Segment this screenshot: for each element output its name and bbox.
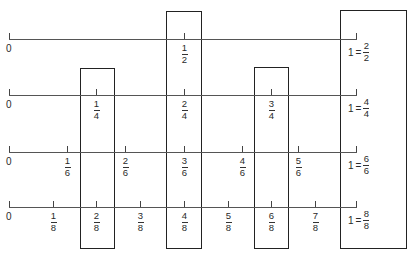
zero-label: 0 [6, 211, 12, 222]
tick [271, 201, 272, 207]
whole-equals-label: 1 = 88 [348, 209, 369, 231]
fraction-label: 14 [94, 99, 100, 121]
tick [242, 146, 243, 152]
tick [9, 33, 10, 39]
tick [315, 201, 316, 207]
fraction-label: 24 [182, 99, 188, 121]
tick [356, 201, 357, 207]
axis-line [9, 95, 357, 96]
whole-equals-label: 1 = 22 [348, 41, 369, 63]
fraction-label: 36 [182, 156, 188, 178]
tick [356, 146, 357, 152]
tick [184, 201, 185, 207]
axis-line [9, 39, 357, 40]
tick [356, 89, 357, 95]
tick [67, 146, 68, 152]
zero-label: 0 [6, 99, 12, 110]
fraction-label: 16 [65, 156, 71, 178]
tick [140, 201, 141, 207]
tick [184, 33, 185, 39]
fraction-label: 56 [296, 156, 302, 178]
whole-equals-label: 1 = 44 [348, 97, 369, 119]
fraction-label: 68 [269, 211, 275, 233]
tick [228, 201, 229, 207]
fraction-label: 78 [313, 211, 319, 233]
fraction-label: 12 [182, 43, 188, 65]
zero-label: 0 [6, 156, 12, 167]
tick [298, 146, 299, 152]
fraction-label: 26 [123, 156, 129, 178]
axis-line [9, 207, 357, 208]
fraction-label: 46 [240, 156, 246, 178]
tick [9, 89, 10, 95]
tick [125, 146, 126, 152]
fraction-label: 48 [182, 211, 188, 233]
tick [53, 201, 54, 207]
fraction-label: 34 [269, 99, 275, 121]
fraction-label: 18 [51, 211, 57, 233]
fraction-label: 28 [94, 211, 100, 233]
tick [184, 89, 185, 95]
tick [9, 146, 10, 152]
tick [271, 89, 272, 95]
tick [96, 89, 97, 95]
zero-label: 0 [6, 43, 12, 54]
tick [356, 33, 357, 39]
tick [96, 201, 97, 207]
tick [9, 201, 10, 207]
whole-equals-label: 1 = 66 [348, 154, 369, 176]
axis-line [9, 152, 357, 153]
fraction-label: 38 [138, 211, 144, 233]
tick [184, 146, 185, 152]
fraction-label: 58 [226, 211, 232, 233]
